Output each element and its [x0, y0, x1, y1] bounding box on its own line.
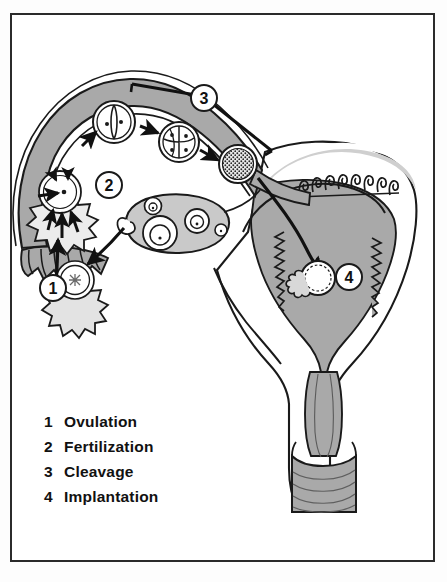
- svg-text:3: 3: [200, 90, 209, 107]
- legend-number: 1: [44, 413, 64, 431]
- follicle-small: [145, 198, 162, 215]
- legend: 1 Ovulation 2 Fertilization 3 Cleavage 4…: [44, 413, 284, 513]
- two-cell-stage: [93, 101, 135, 143]
- legend-number: 3: [44, 463, 64, 481]
- svg-text:1: 1: [49, 280, 58, 297]
- legend-number: 2: [44, 438, 64, 456]
- callout-ovulation: 1: [40, 275, 66, 301]
- follicle-tiny: [215, 224, 227, 236]
- ovum-nucleus: [69, 274, 81, 286]
- svg-text:2: 2: [105, 177, 114, 194]
- follicle-medium: [185, 209, 209, 233]
- legend-label: Implantation: [64, 488, 159, 506]
- four-cell-stage: [159, 122, 199, 162]
- legend-label: Fertilization: [64, 438, 154, 456]
- legend-item-cleavage: 3 Cleavage: [44, 463, 284, 488]
- cervix: [305, 372, 342, 457]
- legend-item-implantation: 4 Implantation: [44, 488, 284, 513]
- fertilization-diagram: 1 2 3 4 1 Ovulation 2 Fertilization 3 Cl…: [0, 0, 447, 582]
- morula: [219, 145, 257, 183]
- legend-label: Ovulation: [64, 413, 137, 431]
- legend-number: 4: [44, 488, 64, 506]
- callout-fertilization: 2: [96, 172, 122, 198]
- callout-implantation: 4: [336, 264, 362, 290]
- callout-cleavage: 3: [191, 85, 217, 111]
- follicle-large: [143, 216, 177, 250]
- legend-item-fertilization: 2 Fertilization: [44, 438, 284, 463]
- legend-label: Cleavage: [64, 463, 134, 481]
- svg-text:4: 4: [345, 269, 354, 286]
- legend-item-ovulation: 1 Ovulation: [44, 413, 284, 438]
